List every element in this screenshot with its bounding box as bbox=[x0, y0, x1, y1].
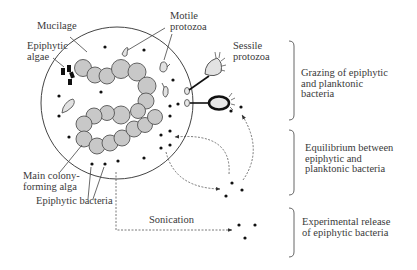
process-grazing: Grazing of epiphytic and planktonic bact… bbox=[301, 68, 388, 100]
process-equilibrium-line1: Equilibrium between bbox=[305, 143, 393, 154]
release-arrow bbox=[166, 152, 220, 189]
epiphytic-bacteria-label: Epiphytic bacteria bbox=[36, 195, 113, 206]
process-grazing-line1: Grazing of epiphytic bbox=[301, 68, 388, 79]
process-grazing-line3: bacteria bbox=[301, 89, 388, 100]
process-release-line1: Experimental release bbox=[302, 217, 390, 228]
main-colony-alga-chain bbox=[75, 60, 163, 155]
motile-protozoa-label-line1: Motile bbox=[170, 10, 207, 21]
epiphytic-algae bbox=[61, 65, 75, 85]
sonication-label: Sonication bbox=[149, 214, 194, 225]
motile-protozoa-label: Motile protozoa bbox=[170, 10, 207, 32]
main-colony-alga-label-line1: Main colony- bbox=[23, 170, 80, 181]
epiphytic-algae-label-line2: algae bbox=[27, 51, 68, 62]
process-equilibrium-line3: planktonic bacteria bbox=[305, 164, 393, 175]
process-release: Experimental release of epiphytic bacter… bbox=[302, 217, 390, 238]
sessile-protozoa-label-line2: protozoa bbox=[233, 51, 270, 62]
attachment-arrow bbox=[175, 136, 229, 174]
sessile-protozoa-label: Sessile protozoa bbox=[233, 40, 270, 62]
process-equilibrium: Equilibrium between epiphytic and plankt… bbox=[305, 143, 393, 175]
sessile-protozoa-label-line1: Sessile bbox=[233, 40, 270, 51]
main-colony-alga-label-line2: forming alga bbox=[23, 181, 80, 192]
mucilage-label: Mucilage bbox=[37, 20, 77, 31]
main-colony-alga-label: Main colony- forming alga bbox=[23, 170, 80, 192]
sessile-protozoa bbox=[185, 52, 236, 110]
motile-protozoa-label-line2: protozoa bbox=[170, 21, 207, 32]
process-release-line2: of epiphytic bacteria bbox=[302, 228, 390, 239]
grazing-arrow bbox=[242, 115, 253, 180]
process-brackets bbox=[289, 41, 294, 257]
epiphytic-algae-label-line1: Epiphytic bbox=[27, 40, 68, 51]
epiphytic-algae-label: Epiphytic algae bbox=[27, 40, 68, 62]
